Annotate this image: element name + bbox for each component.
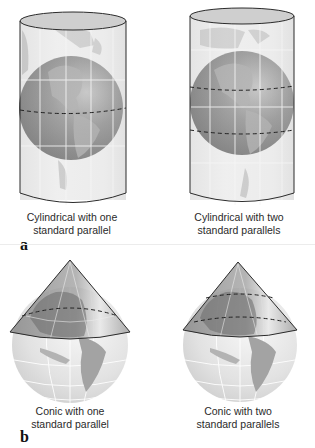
cylinder-one-parallel-illustration — [19, 12, 126, 205]
caption-conic-two: Conic with two standard parallels — [163, 405, 313, 431]
panel-divider — [0, 244, 315, 245]
caption-line-1: Cylindrical with one — [0, 211, 147, 224]
panel-label-b: b — [20, 428, 29, 446]
caption-line-1: Conic with one — [0, 405, 145, 418]
conic-one-parallel-illustration — [10, 260, 130, 403]
caption-line-1: Cylindrical with two — [164, 211, 314, 224]
caption-cylindrical-two: Cylindrical with two standard parallels — [164, 211, 314, 237]
conic-two-parallels-illustration — [183, 262, 297, 403]
map-projection-figure: Cylindrical with one standard parallel C… — [0, 0, 315, 448]
caption-line-2: standard parallels — [163, 418, 313, 431]
caption-cylindrical-one: Cylindrical with one standard parallel — [0, 211, 147, 237]
caption-line-2: standard parallels — [164, 224, 314, 237]
panel-label-a: a — [20, 236, 28, 254]
cylinder-two-parallels-illustration — [190, 8, 294, 205]
caption-line-1: Conic with two — [163, 405, 313, 418]
